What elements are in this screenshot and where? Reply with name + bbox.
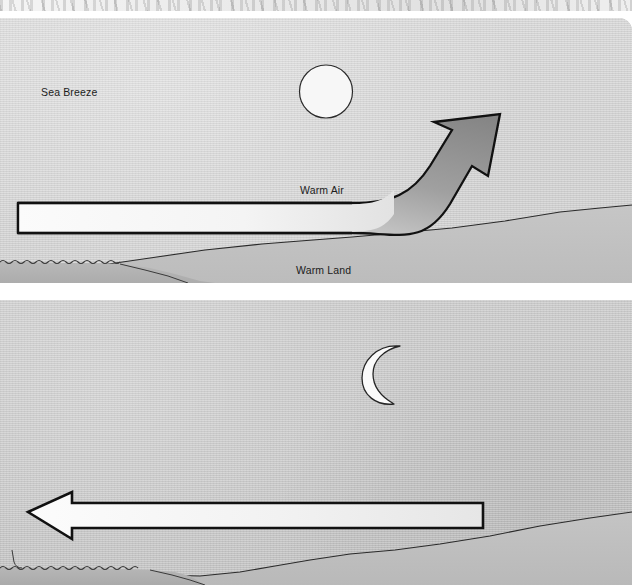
left-shore-tick	[12, 550, 22, 568]
sea-breeze-panel: Sea Breeze Warm Air Warm Land	[0, 18, 632, 283]
warm-air-arrow-shaft-highlight	[19, 190, 394, 232]
warm-air-label: Warm Air	[300, 184, 344, 196]
sun-icon	[300, 65, 353, 118]
land-breeze-illustration	[0, 300, 632, 585]
sea-breeze-label: Sea Breeze	[41, 86, 97, 98]
scan-edge-strip	[0, 0, 632, 11]
warm-land-label: Warm Land	[296, 264, 351, 276]
land-breeze-panel: Land Breeze Cool Air Cool Land	[0, 300, 632, 585]
diagram-page: Sea Breeze Warm Air Warm Land	[0, 0, 632, 585]
cool-air-flow-arrow	[28, 492, 483, 539]
moon-icon	[362, 346, 400, 404]
sea-breeze-illustration	[0, 18, 632, 283]
sea-water-shape-bottom	[0, 568, 205, 585]
